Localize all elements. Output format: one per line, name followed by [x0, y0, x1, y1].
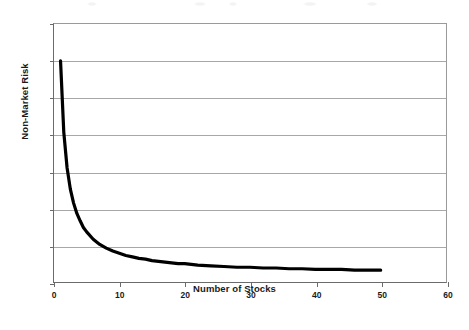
- gridline: [54, 61, 446, 62]
- y-tick-mark: [50, 98, 54, 99]
- y-tick-mark: [50, 173, 54, 174]
- y-tick-mark: [50, 135, 54, 136]
- y-tick-mark: [50, 247, 54, 248]
- plot-area: 0%5%10%15%20%25%30%35% 0102030405060: [53, 23, 447, 283]
- series-non-market-risk: [54, 24, 446, 282]
- gridline: [54, 135, 446, 136]
- x-axis-title: Number of Stocks: [0, 283, 469, 294]
- y-tick-mark: [50, 61, 54, 62]
- y-axis-title: Non-Market Risk: [19, 32, 30, 172]
- gridline: [54, 98, 446, 99]
- y-tick-mark: [50, 24, 54, 25]
- chart-figure: Non-Market Risk 0%5%10%15%20%25%30%35% 0…: [0, 0, 469, 330]
- gridline: [54, 247, 446, 248]
- gridline: [54, 210, 446, 211]
- y-tick-mark: [50, 210, 54, 211]
- scan-artifact: [0, 0, 469, 9]
- gridline: [54, 173, 446, 174]
